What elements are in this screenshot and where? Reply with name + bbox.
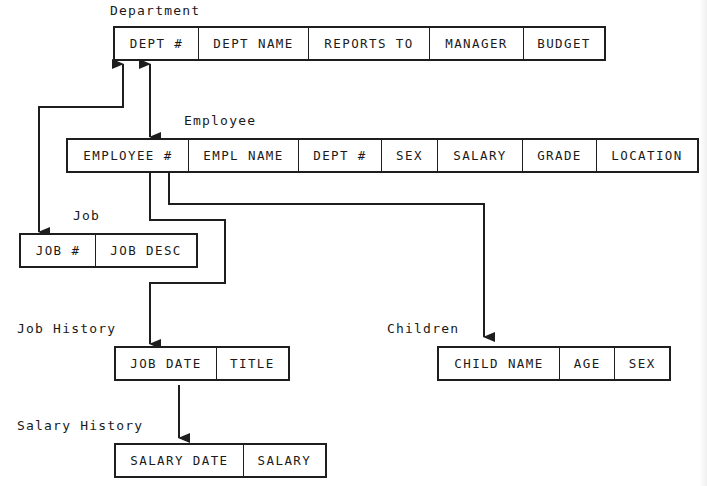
employee-field-location: LOCATION: [597, 140, 697, 171]
department-field-dept-name: DEPT NAME: [199, 28, 309, 59]
job-history-field-job-date: JOB DATE: [116, 348, 217, 379]
job-entity[interactable]: JOB # JOB DESC: [19, 233, 198, 268]
children-field-child-name: CHILD NAME: [439, 348, 560, 379]
department-entity[interactable]: DEPT # DEPT NAME REPORTS TO MANAGER BUDG…: [113, 26, 606, 61]
salary-history-field-salary-date: SALARY DATE: [116, 445, 244, 476]
department-title: Department: [110, 3, 200, 18]
job-field-job-num: JOB #: [21, 235, 96, 266]
job-history-field-title: TITLE: [217, 348, 288, 379]
job-history-title: Job History: [17, 321, 116, 336]
employee-entity[interactable]: EMPLOYEE # EMPL NAME DEPT # SEX SALARY G…: [66, 138, 699, 173]
employee-field-dept-num: DEPT #: [299, 140, 382, 171]
employee-to-children-connector: [169, 173, 484, 337]
department-field-dept-num: DEPT #: [115, 28, 199, 59]
employee-field-grade: GRADE: [523, 140, 597, 171]
children-title: Children: [387, 321, 459, 336]
employee-field-empl-name: EMPL NAME: [189, 140, 299, 171]
children-field-age: AGE: [560, 348, 616, 379]
salary-history-field-salary: SALARY: [244, 445, 325, 476]
employee-field-employee-num: EMPLOYEE #: [68, 140, 189, 171]
department-field-manager: MANAGER: [430, 28, 524, 59]
employee-field-salary: SALARY: [438, 140, 523, 171]
children-entity[interactable]: CHILD NAME AGE SEX: [437, 346, 671, 381]
salary-history-entity[interactable]: SALARY DATE SALARY: [114, 443, 327, 478]
job-title: Job: [73, 208, 100, 223]
job-history-entity[interactable]: JOB DATE TITLE: [114, 346, 290, 381]
employee-field-sex: SEX: [382, 140, 438, 171]
salary-history-title: Salary History: [17, 418, 143, 433]
department-field-reports-to: REPORTS TO: [309, 28, 430, 59]
employee-title: Employee: [184, 113, 256, 128]
department-field-budget: BUDGET: [524, 28, 604, 59]
job-field-job-desc: JOB DESC: [96, 235, 196, 266]
children-field-sex: SEX: [615, 348, 669, 379]
